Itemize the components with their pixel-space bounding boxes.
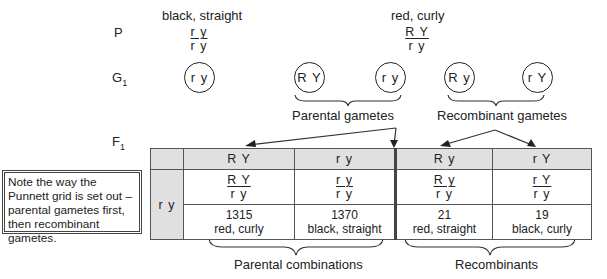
recombinant-gametes-brace: [448, 95, 544, 106]
offspring-3-count: 21: [397, 208, 492, 222]
offspring-3-allele-top: R y: [397, 173, 492, 187]
offspring-1-allele-bottom: r y: [184, 187, 294, 201]
grid-phenotype-row: 1315 red, curly 1370 black, straight 21 …: [151, 205, 592, 240]
offspring-4-allele-top: r Y: [493, 173, 591, 187]
col-gamete-3: R y: [396, 149, 493, 170]
offspring-genotype-2: r y r y: [295, 170, 396, 205]
offspring-result-1: 1315 red, curly: [184, 205, 295, 240]
parental-combinations-label: Parental combinations: [234, 257, 363, 272]
offspring-3-allele-bottom: r y: [397, 187, 492, 201]
grid-genotype-row: r y R Y r y r y r y R y r y r Y r y: [151, 170, 592, 205]
punnett-grid: R Y r y R y r Y r y R Y r y r y r y R y …: [150, 148, 592, 240]
recombinants-brace: [405, 239, 575, 255]
parental-gametes-brace: [295, 95, 401, 106]
offspring-result-3: 21 red, straight: [396, 205, 493, 240]
grid-header-row: R Y r y R y r Y: [151, 149, 592, 170]
offspring-result-2: 1370 black, straight: [295, 205, 396, 240]
col-gamete-1: R Y: [184, 149, 295, 170]
row-gamete: r y: [151, 170, 184, 240]
offspring-genotype-4: r Y r y: [493, 170, 592, 205]
offspring-1-phenotype: red, curly: [184, 222, 294, 236]
offspring-4-allele-bottom: r y: [493, 187, 591, 201]
parental-combinations-brace: [209, 239, 383, 255]
note-box: Note the way the Punnett grid is set out…: [2, 170, 142, 234]
offspring-2-allele-top: r y: [295, 173, 394, 187]
offspring-2-count: 1370: [295, 208, 394, 222]
offspring-2-allele-bottom: r y: [295, 187, 394, 201]
offspring-1-count: 1315: [184, 208, 294, 222]
parental-gametes-label: Parental gametes: [292, 108, 394, 123]
offspring-genotype-1: R Y r y: [184, 170, 295, 205]
offspring-1-allele-top: R Y: [184, 173, 294, 187]
offspring-2-phenotype: black, straight: [295, 222, 394, 236]
grid-corner: [151, 149, 184, 170]
offspring-4-phenotype: black, curly: [493, 222, 591, 236]
col-gamete-4: r Y: [493, 149, 592, 170]
recombinants-label: Recombinants: [455, 257, 538, 272]
offspring-genotype-3: R y r y: [396, 170, 493, 205]
offspring-3-phenotype: red, straight: [397, 222, 492, 236]
offspring-4-count: 19: [493, 208, 591, 222]
col-gamete-2: r y: [295, 149, 396, 170]
recombinant-gametes-label: Recombinant gametes: [437, 108, 567, 123]
offspring-result-4: 19 black, curly: [493, 205, 592, 240]
